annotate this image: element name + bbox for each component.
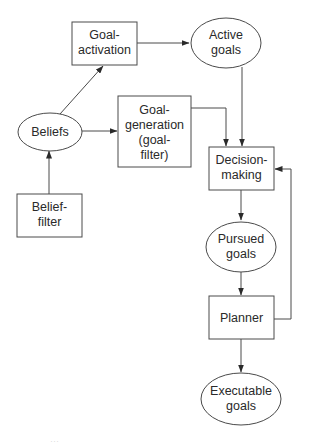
goal-processing-diagram: Goal- activation Active goals Beliefs Go… <box>0 0 309 445</box>
node-label-line: Planner <box>220 311 263 325</box>
node-label-line: goals <box>211 43 241 57</box>
node-planner: Planner <box>209 296 274 339</box>
node-label-line: goals <box>226 247 256 261</box>
node-label-line: making <box>221 168 261 182</box>
node-belief-filter: Belief- filter <box>17 194 82 237</box>
node-label-line: (goal- <box>139 133 171 147</box>
figure-caption: … <box>50 434 59 444</box>
node-label-line: Beliefs <box>31 125 69 139</box>
node-label-line: Goal- <box>139 103 170 117</box>
edge-goalgeneration-to-decisionmaking <box>191 108 226 146</box>
node-label-line: goals <box>226 399 256 413</box>
node-label-line: filter <box>38 215 62 229</box>
node-pursued-goals: Pursued goals <box>206 222 276 272</box>
node-label-line: Pursued <box>218 232 265 246</box>
node-beliefs: Beliefs <box>18 113 82 151</box>
node-goal-activation: Goal- activation <box>72 22 137 65</box>
node-goal-generation: Goal- generation (goal- filter) <box>118 96 191 167</box>
edge-beliefs-to-goalactivation <box>60 66 103 114</box>
node-label-line: Executable <box>210 384 272 398</box>
node-active-goals: Active goals <box>191 18 261 68</box>
node-decision-making: Decision- making <box>209 147 274 190</box>
node-label-line: activation <box>78 43 131 57</box>
node-label-line: Decision- <box>215 153 267 167</box>
node-label-line: filter) <box>141 148 169 162</box>
node-label-line: Active <box>209 28 243 42</box>
node-label-line: Goal- <box>89 28 120 42</box>
node-label-line: Belief- <box>32 200 67 214</box>
node-label-line: generation <box>125 118 184 132</box>
node-executable-goals: Executable goals <box>201 373 281 425</box>
edge-planner-feedback-to-decisionmaking <box>274 169 291 319</box>
